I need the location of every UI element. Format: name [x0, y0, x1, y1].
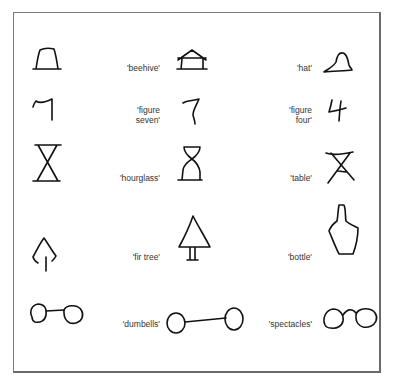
- label-figure-four: 'figure four': [289, 105, 312, 125]
- original-diamond-drawing: [33, 238, 56, 271]
- dumbells-drawing: [167, 308, 243, 333]
- label-spectacles: 'spectacles': [269, 319, 312, 329]
- label-beehive: 'beehive': [127, 63, 160, 73]
- table-drawing: [326, 152, 354, 183]
- spectacles-drawing: [324, 309, 377, 328]
- hourglass-drawing: [178, 147, 202, 180]
- label-hat: 'hat': [297, 63, 312, 73]
- label-figure-four-line2: four': [289, 115, 312, 125]
- drawings-canvas: [0, 0, 398, 377]
- label-fir-tree: 'fir tree': [133, 252, 160, 262]
- label-table: 'table': [290, 173, 312, 183]
- original-glasses-drawing: [31, 304, 83, 323]
- figure-seven-drawing: [183, 99, 199, 124]
- label-figure-seven-line2: seven': [136, 115, 160, 125]
- label-hourglass: 'hourglass': [120, 173, 160, 183]
- fir-tree-drawing: [179, 216, 210, 260]
- label-figure-four-line1: 'figure: [289, 105, 312, 115]
- label-figure-seven-line1: 'figure: [136, 105, 160, 115]
- figure-four-drawing: [329, 100, 346, 121]
- label-bottle: 'bottle': [288, 252, 312, 262]
- label-dumbells: 'dumbells': [123, 319, 160, 329]
- bottle-drawing: [329, 205, 358, 254]
- beehive-drawing: [177, 50, 207, 69]
- original-seven-drawing: [33, 99, 52, 120]
- label-figure-seven: 'figure seven': [136, 105, 160, 125]
- hat-drawing: [324, 53, 352, 72]
- original-arch-drawing: [33, 48, 61, 69]
- original-hourglass-drawing: [33, 145, 61, 181]
